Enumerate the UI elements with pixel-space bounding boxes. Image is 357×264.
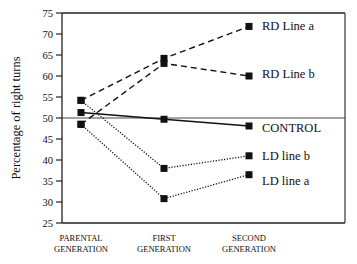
y-tick-label: 45 — [43, 134, 54, 145]
y-tick-label: 75 — [43, 8, 54, 19]
series-label: LD line a — [262, 174, 310, 188]
series-label: LD line b — [262, 149, 310, 163]
data-point-marker — [161, 195, 168, 202]
y-axis-label: Percentage of right turns — [9, 56, 23, 179]
data-point-marker — [161, 165, 168, 172]
y-tick-label: 40 — [43, 155, 54, 166]
data-point-marker — [246, 23, 253, 30]
x-category-label: SECONDGENERATION — [222, 233, 276, 254]
series-group: RD Line aRD Line bCONTROLLD line bLD lin… — [78, 19, 322, 202]
line-chart: 2530354045505560657075 PARENTALGENERATIO… — [0, 0, 357, 264]
y-tick-label: 65 — [43, 50, 54, 61]
series-label: RD Line b — [262, 67, 315, 81]
y-tick-label: 35 — [43, 176, 54, 187]
series-label: RD Line a — [262, 19, 315, 33]
data-point-marker — [78, 109, 85, 116]
data-point-marker — [78, 121, 85, 128]
series-label: CONTROL — [262, 121, 321, 135]
y-tick-label: 70 — [43, 29, 54, 40]
y-tick-label: 25 — [43, 218, 54, 229]
y-tick-label: 50 — [43, 113, 54, 124]
x-category-label: PARENTALGENERATION — [54, 233, 108, 254]
y-tick-label: 30 — [43, 197, 54, 208]
data-point-marker — [246, 122, 253, 129]
data-point-marker — [161, 116, 168, 123]
series-line — [81, 124, 249, 198]
y-tick-label: 55 — [43, 92, 54, 103]
x-category-labels: PARENTALGENERATIONFIRSTGENERATIONSECONDG… — [54, 233, 276, 254]
data-point-marker — [246, 152, 253, 159]
series-rd-line-a: RD Line a — [78, 19, 315, 104]
x-category-label: FIRSTGENERATION — [137, 233, 191, 254]
data-point-marker — [246, 73, 253, 80]
y-tick-label: 60 — [43, 71, 54, 82]
data-point-marker — [78, 97, 85, 104]
data-point-marker — [161, 60, 168, 67]
data-point-marker — [246, 171, 253, 178]
series-control: CONTROL — [78, 109, 322, 135]
series-line — [81, 100, 249, 168]
y-ticks: 2530354045505560657075 — [43, 8, 63, 229]
